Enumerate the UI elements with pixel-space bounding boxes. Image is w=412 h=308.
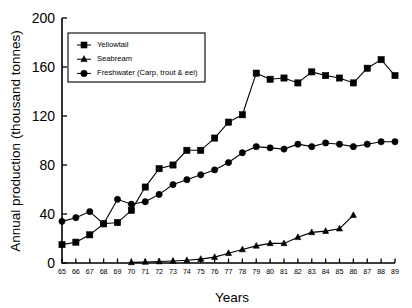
data-point-square	[73, 239, 79, 245]
legend-label: Seabream	[97, 54, 132, 63]
data-point-circle	[73, 215, 79, 221]
data-point-square	[225, 119, 231, 125]
data-point-square	[81, 42, 87, 48]
data-point-triangle	[267, 240, 273, 246]
x-tick-label: 74	[183, 267, 191, 276]
x-tick-label: 70	[127, 267, 135, 276]
x-tick-label: 75	[197, 267, 205, 276]
x-tick-label: 85	[336, 267, 344, 276]
data-point-square	[253, 70, 259, 76]
data-point-circle	[364, 141, 370, 147]
data-point-square	[323, 72, 329, 78]
data-point-circle	[170, 181, 176, 187]
line-chart: 04080120160200 6566676869707172737475767…	[0, 0, 412, 308]
data-point-circle	[378, 139, 384, 145]
legend-label: Yellowtail	[97, 40, 129, 49]
x-tick-label: 69	[114, 267, 122, 276]
y-tick-label: 120	[32, 108, 56, 124]
data-point-square	[128, 207, 134, 213]
x-tick-label: 68	[100, 267, 108, 276]
x-tick-label: 77	[225, 267, 233, 276]
data-point-square	[156, 166, 162, 172]
data-point-square	[309, 69, 315, 75]
x-tick-label: 80	[266, 267, 274, 276]
data-point-circle	[392, 139, 398, 145]
data-point-circle	[295, 141, 301, 147]
data-point-square	[184, 147, 190, 153]
data-point-circle	[114, 196, 120, 202]
x-tick-label: 89	[391, 267, 399, 276]
data-point-square	[59, 242, 65, 248]
chart-legend: YellowtailSeabreamFreshwater (Carp, trou…	[68, 33, 205, 82]
data-point-square	[281, 75, 287, 81]
data-point-circle	[156, 191, 162, 197]
data-point-square	[378, 57, 384, 63]
data-point-circle	[281, 146, 287, 152]
y-tick-label: 40	[39, 206, 55, 222]
data-point-circle	[128, 201, 134, 207]
data-point-circle	[267, 145, 273, 151]
data-point-square	[350, 80, 356, 86]
y-axis-tick-labels: 04080120160200	[32, 10, 56, 271]
x-tick-label: 66	[72, 267, 80, 276]
data-point-circle	[87, 208, 93, 214]
x-tick-label: 78	[238, 267, 246, 276]
data-point-square	[142, 184, 148, 190]
x-tick-label: 79	[252, 267, 260, 276]
y-tick-label: 0	[47, 255, 55, 271]
x-tick-label: 65	[58, 267, 66, 276]
data-point-circle	[81, 70, 87, 76]
series-yellowtail	[59, 57, 398, 248]
data-point-square	[87, 232, 93, 238]
y-tick-label: 200	[32, 10, 56, 26]
series-line	[62, 60, 395, 245]
x-tick-label: 67	[86, 267, 94, 276]
x-tick-label: 88	[377, 267, 385, 276]
x-tick-label: 84	[322, 267, 330, 276]
x-tick-label: 73	[169, 267, 177, 276]
data-point-square	[295, 80, 301, 86]
y-axis-title: Annual production (thousand tonnes)	[8, 30, 23, 251]
y-tick-label: 160	[32, 59, 56, 75]
series-line	[62, 142, 395, 224]
data-point-square	[170, 162, 176, 168]
x-tick-label: 72	[155, 267, 163, 276]
series-line	[131, 215, 353, 262]
chart-series	[59, 57, 398, 265]
data-point-square	[336, 75, 342, 81]
data-point-circle	[239, 150, 245, 156]
x-tick-label: 86	[349, 267, 357, 276]
chart-container: 04080120160200 6566676869707172737475767…	[0, 0, 412, 308]
data-point-square	[212, 135, 218, 141]
data-point-circle	[322, 140, 328, 146]
x-tick-label: 83	[308, 267, 316, 276]
data-point-circle	[142, 199, 148, 205]
data-point-square	[267, 76, 273, 82]
data-point-circle	[211, 167, 217, 173]
data-point-square	[364, 65, 370, 71]
data-point-square	[239, 112, 245, 118]
data-point-circle	[100, 221, 106, 227]
x-tick-label: 82	[294, 267, 302, 276]
data-point-circle	[225, 159, 231, 165]
data-point-square	[198, 147, 204, 153]
data-point-circle	[350, 143, 356, 149]
x-tick-label: 87	[363, 267, 371, 276]
data-point-circle	[309, 143, 315, 149]
data-point-circle	[59, 218, 65, 224]
data-point-square	[392, 72, 398, 78]
legend-label: Freshwater (Carp, trout & eel)	[97, 68, 198, 77]
data-point-circle	[184, 177, 190, 183]
series-freshwater	[59, 139, 398, 227]
x-tick-label: 81	[280, 267, 288, 276]
x-tick-label: 76	[211, 267, 219, 276]
y-tick-label: 80	[39, 157, 55, 173]
data-point-circle	[198, 172, 204, 178]
data-point-circle	[336, 141, 342, 147]
x-tick-label: 71	[141, 267, 149, 276]
x-axis-tick-labels: 6566676869707172737475767778798081828384…	[58, 267, 399, 276]
data-point-triangle	[350, 212, 356, 218]
x-axis-title: Years	[215, 290, 249, 305]
data-point-square	[114, 219, 120, 225]
series-seabream	[128, 212, 356, 265]
